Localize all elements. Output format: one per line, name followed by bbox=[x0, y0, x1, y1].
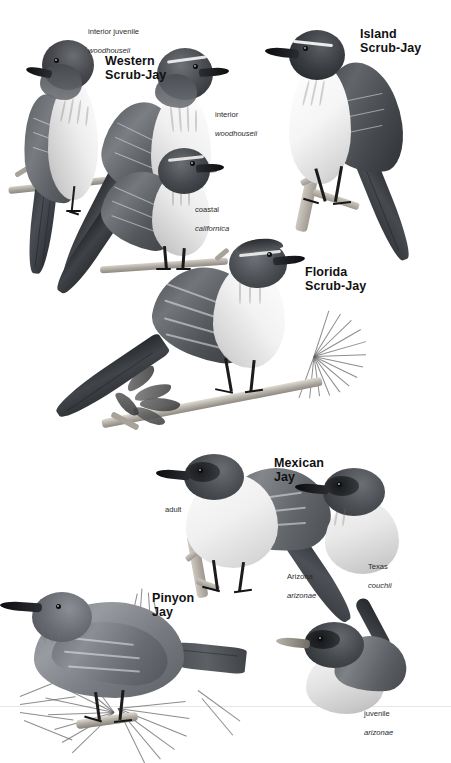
species-title-pinyon-jay: Pinyon Jay bbox=[152, 592, 194, 619]
bill bbox=[199, 67, 229, 77]
label-texas-couchii: Texas couchii bbox=[368, 553, 392, 600]
label-plain: Texas bbox=[368, 562, 392, 571]
foot bbox=[114, 719, 132, 723]
label-scientific: arizonae bbox=[364, 728, 393, 737]
label-interior-woodhouseii: interior woodhouseii bbox=[215, 101, 257, 148]
label-juvenile-arizonae: juvenile arizonae bbox=[364, 700, 393, 747]
label-adult: adult bbox=[165, 496, 181, 524]
tail bbox=[51, 332, 171, 423]
bill bbox=[196, 163, 224, 172]
label-scientific: woodhouseii bbox=[215, 129, 257, 138]
label-plain: interior bbox=[215, 110, 257, 119]
face-mask bbox=[325, 476, 359, 496]
eye-highlight bbox=[194, 65, 196, 67]
species-title-island-scrub-jay: Island Scrub-Jay bbox=[360, 28, 421, 55]
eye-highlight bbox=[57, 605, 59, 607]
label-plain: interior juvenile bbox=[88, 27, 139, 36]
bird-florida-scrub-jay bbox=[105, 238, 315, 418]
eye-highlight bbox=[55, 59, 57, 61]
eye-highlight bbox=[319, 637, 321, 639]
face-mask bbox=[306, 630, 340, 649]
bill bbox=[156, 469, 191, 481]
foot bbox=[303, 198, 319, 205]
species-title-florida-scrub-jay: Florida Scrub-Jay bbox=[305, 266, 366, 293]
label-scientific: californica bbox=[195, 224, 229, 233]
label-plain: Arizona bbox=[287, 572, 316, 581]
label-coastal-californica: coastal californica bbox=[195, 196, 229, 243]
eye-highlight bbox=[338, 483, 340, 485]
tail-feather-line bbox=[66, 353, 153, 412]
bird-pinyon-jay bbox=[8, 588, 248, 738]
label-plain: juvenile bbox=[364, 709, 393, 718]
label-plain: adult bbox=[165, 505, 181, 514]
species-title-mexican-jay: Mexican Jay bbox=[274, 457, 324, 484]
eye-highlight bbox=[304, 47, 306, 49]
face-mask bbox=[186, 462, 220, 482]
foot bbox=[333, 201, 351, 205]
eye-highlight bbox=[268, 253, 270, 255]
bird-island-scrub-jay bbox=[275, 22, 440, 252]
label-interior-juvenile-woodhouseii: interior juvenile woodhouseii bbox=[88, 18, 139, 65]
label-scientific: woodhouseii bbox=[88, 46, 139, 55]
eye-highlight bbox=[199, 469, 201, 471]
bird-mexican-juvenile-arizonae bbox=[288, 612, 418, 712]
illustration-plate: Western Scrub-Jay interior juvenile wood… bbox=[0, 0, 451, 763]
label-scientific: arizonae bbox=[287, 591, 316, 600]
eye-highlight bbox=[191, 162, 193, 164]
foot bbox=[245, 389, 263, 394]
label-arizona-arizonae: Arizona arizonae bbox=[287, 563, 316, 610]
label-plain: coastal bbox=[195, 205, 229, 214]
label-scientific: couchii bbox=[368, 581, 392, 590]
breast-streak bbox=[195, 110, 197, 132]
head bbox=[32, 592, 92, 642]
